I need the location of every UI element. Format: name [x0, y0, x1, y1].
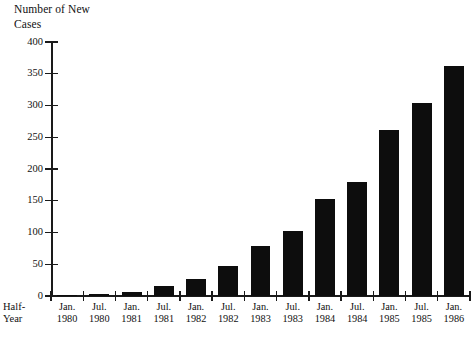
- x-axis-tick-label: Jan. 1980: [51, 301, 83, 326]
- bar: [444, 66, 464, 297]
- y-axis-tick-label: 150: [8, 195, 43, 206]
- bar: [251, 246, 271, 296]
- y-axis-tick-label: 50: [8, 259, 43, 270]
- x-axis-tick-label: Jan. 1986: [438, 301, 470, 326]
- bars-container: [51, 42, 470, 296]
- bar: [186, 279, 206, 296]
- y-axis-tick-label: 250: [8, 132, 43, 143]
- y-axis-tick-label: 0: [8, 291, 43, 302]
- bar: [315, 199, 335, 296]
- bar: [283, 231, 303, 296]
- bar: [347, 182, 367, 296]
- x-axis-tick-label: Jan. 1984: [309, 301, 341, 326]
- y-axis-tick-label: 300: [8, 100, 43, 111]
- x-axis-tick-label: Jul. 1984: [341, 301, 373, 326]
- chart-title: Number of New Cases: [14, 2, 194, 31]
- x-axis-tick-label: Jan. 1981: [115, 301, 147, 326]
- y-axis-tick-label: 400: [8, 37, 43, 48]
- y-axis-tick-label: 350: [8, 68, 43, 79]
- x-axis-title: Half- Year: [3, 301, 25, 326]
- bar: [122, 292, 142, 296]
- x-axis-tick-label: Jan. 1983: [244, 301, 276, 326]
- bar: [57, 295, 77, 296]
- x-axis-tick-label: Jul. 1985: [406, 301, 438, 326]
- bar: [89, 294, 109, 296]
- x-axis-tick-label: Jul. 1983: [277, 301, 309, 326]
- bar: [379, 130, 399, 296]
- x-axis-tick-label: Jan. 1982: [180, 301, 212, 326]
- y-axis-tick-label: 100: [8, 227, 43, 238]
- bar: [218, 266, 238, 296]
- x-axis-tick-label: Jul. 1982: [212, 301, 244, 326]
- bar-chart: Number of New Cases 05010015020025030035…: [0, 0, 476, 337]
- y-axis-tick-label: 200: [8, 164, 43, 175]
- x-axis-tick-label: Jul. 1981: [148, 301, 180, 326]
- bar: [412, 103, 432, 296]
- x-axis-tick-label: Jul. 1980: [83, 301, 115, 326]
- x-axis-tick-label: Jan. 1985: [373, 301, 405, 326]
- bar: [154, 286, 174, 296]
